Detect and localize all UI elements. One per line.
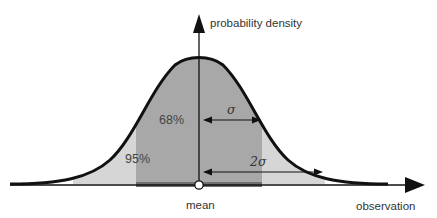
- one-sigma-percent-label: 68%: [159, 113, 184, 127]
- two-sigma-arrow-right-icon: [314, 169, 323, 176]
- mean-label: mean: [186, 199, 215, 211]
- normal-distribution-diagram: probability density observation mean 68%…: [0, 0, 437, 218]
- two-sigma-label: 2σ: [249, 154, 267, 169]
- x-axis-arrow-icon: [405, 177, 425, 193]
- y-axis-label: probability density: [210, 17, 302, 29]
- y-axis-arrow-icon: [193, 14, 205, 33]
- mean-marker: [195, 181, 203, 189]
- x-axis-label: observation: [356, 200, 415, 212]
- two-sigma-percent-label: 95%: [125, 152, 150, 166]
- sigma-label: σ: [227, 102, 236, 117]
